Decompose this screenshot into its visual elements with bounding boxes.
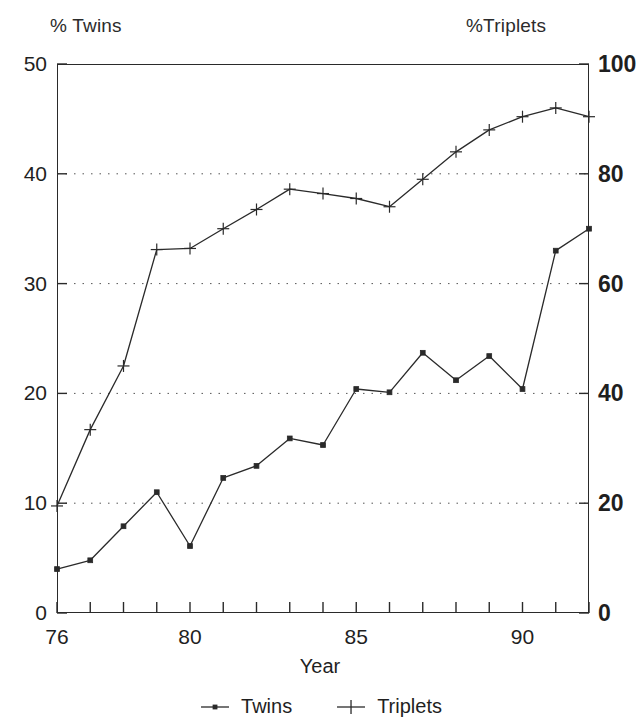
plus-marker-icon bbox=[334, 699, 368, 715]
series-markers-twins bbox=[55, 226, 592, 571]
data-point bbox=[520, 387, 525, 392]
series-line-twins bbox=[57, 229, 589, 569]
legend-item-triplets[interactable]: Triplets bbox=[334, 695, 442, 718]
x-axis-title: Year bbox=[300, 655, 340, 678]
data-point bbox=[221, 476, 226, 481]
legend-label: Twins bbox=[241, 695, 292, 718]
chart-container: % Twins %Triplets 01020304050 0204060801… bbox=[0, 0, 640, 726]
data-point bbox=[587, 226, 592, 231]
right-axis-header: %Triplets bbox=[466, 15, 546, 37]
data-point bbox=[287, 436, 292, 441]
left-tick-label: 40 bbox=[24, 162, 47, 186]
chart-legend: TwinsTriplets bbox=[198, 695, 442, 718]
left-tick-label: 50 bbox=[24, 52, 47, 76]
series-markers-triplets bbox=[51, 102, 595, 512]
legend-item-twins[interactable]: Twins bbox=[198, 695, 292, 718]
data-point bbox=[553, 248, 558, 253]
data-point bbox=[154, 490, 159, 495]
x-tick-label: 80 bbox=[178, 625, 201, 649]
right-tick-label: 0 bbox=[598, 600, 611, 627]
data-point bbox=[88, 558, 93, 563]
left-tick-label: 0 bbox=[35, 601, 47, 625]
left-tick-label: 10 bbox=[24, 491, 47, 515]
data-point bbox=[354, 387, 359, 392]
data-point bbox=[420, 350, 425, 355]
right-tick-label: 60 bbox=[598, 270, 624, 297]
x-tick-label: 76 bbox=[45, 625, 68, 649]
square-dot-marker-icon bbox=[198, 699, 232, 715]
data-point bbox=[121, 524, 126, 529]
left-tick-label: 20 bbox=[24, 381, 47, 405]
right-tick-label: 100 bbox=[598, 51, 636, 78]
data-point bbox=[487, 354, 492, 359]
right-tick-label: 20 bbox=[598, 490, 624, 517]
data-point bbox=[188, 544, 193, 549]
data-point bbox=[387, 390, 392, 395]
left-tick-label: 30 bbox=[24, 272, 47, 296]
data-point bbox=[254, 463, 259, 468]
plot-area bbox=[57, 64, 589, 613]
data-point bbox=[321, 443, 326, 448]
right-tick-label: 80 bbox=[598, 160, 624, 187]
x-tick-label: 85 bbox=[345, 625, 368, 649]
data-point bbox=[55, 567, 60, 572]
data-point bbox=[454, 378, 459, 383]
x-tick-label: 90 bbox=[511, 625, 534, 649]
legend-label: Triplets bbox=[377, 695, 442, 718]
left-axis-header: % Twins bbox=[50, 15, 122, 37]
right-tick-label: 40 bbox=[598, 380, 624, 407]
